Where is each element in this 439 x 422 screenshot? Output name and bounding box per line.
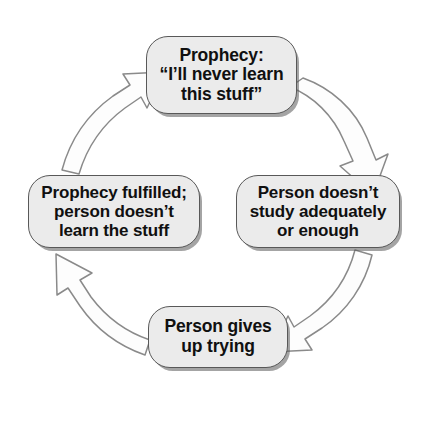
- node-study: Person doesn’t study adequately or enoug…: [236, 175, 400, 248]
- cycle-diagram: Prophecy: “I’ll never learn this stuff” …: [0, 0, 439, 422]
- node-gives-up-label: Person gives up trying: [164, 317, 271, 356]
- node-fulfilled: Prophecy fulfilled; person doesn’t learn…: [28, 175, 200, 248]
- node-prophecy-label: Prophecy: “I’ll never learn this stuff”: [160, 46, 284, 105]
- arrow-gives-up-to-fulfilled: [56, 254, 150, 355]
- node-prophecy: Prophecy: “I’ll never learn this stuff”: [146, 36, 297, 114]
- node-fulfilled-label: Prophecy fulfilled; person doesn’t learn…: [41, 183, 186, 240]
- node-study-label: Person doesn’t study adequately or enoug…: [250, 183, 386, 240]
- node-gives-up: Person gives up trying: [148, 306, 288, 368]
